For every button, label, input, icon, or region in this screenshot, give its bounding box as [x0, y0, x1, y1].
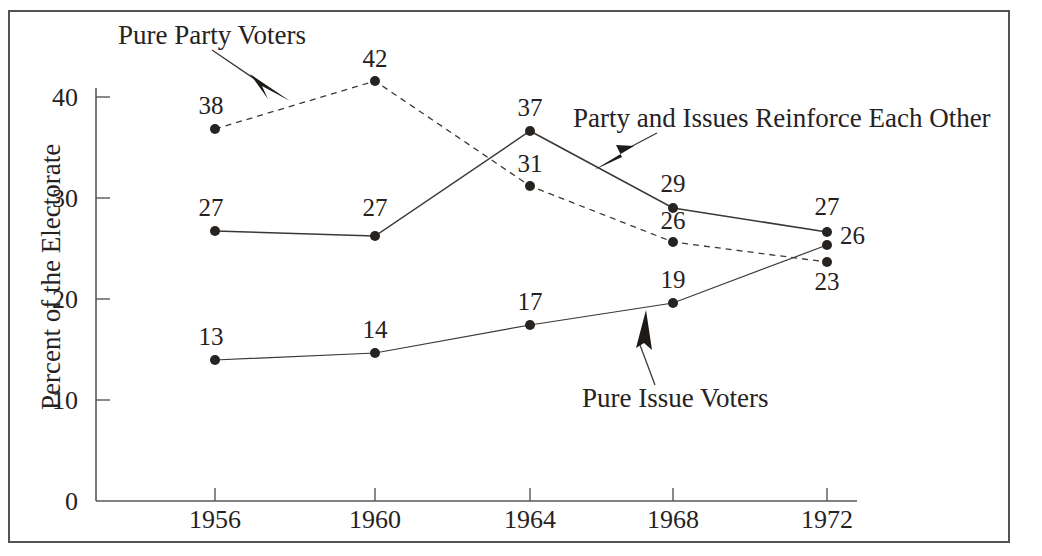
y-tick-label-0: 0 — [8, 487, 78, 517]
y-tick-label-40: 40 — [8, 83, 78, 113]
data-point — [822, 227, 832, 237]
data-label-issue-1956: 13 — [183, 323, 239, 351]
data-point — [822, 240, 832, 250]
data-point — [668, 298, 678, 308]
x-tick-label-1964: 1964 — [470, 505, 590, 535]
annotation-party-and-issues: Party and Issues Reinforce Each Other — [573, 103, 991, 134]
x-tick-label-1956: 1956 — [155, 505, 275, 535]
x-tick-label-1960: 1960 — [315, 505, 435, 535]
data-label-party-1960: 42 — [347, 45, 403, 73]
data-label-issue-1972: 26 — [840, 222, 865, 250]
chart-plot-area — [0, 0, 1042, 556]
arrow-head-pure-party — [250, 74, 290, 101]
data-point — [525, 181, 535, 191]
data-point — [210, 226, 220, 236]
data-label-reinforce-1972: 27 — [799, 193, 855, 221]
data-point — [668, 237, 678, 247]
x-tick-label-1972: 1972 — [767, 505, 887, 535]
arrow-head-party-and-issues — [594, 145, 634, 170]
data-label-party-1968: 26 — [645, 207, 701, 235]
data-label-reinforce-1968: 29 — [645, 170, 701, 198]
data-point — [525, 320, 535, 330]
data-label-issue-1960: 14 — [347, 316, 403, 344]
arrow-head-pure-issue — [636, 310, 652, 350]
data-label-party-1972: 23 — [799, 268, 855, 296]
data-label-reinforce-1956: 27 — [183, 194, 239, 222]
data-point — [525, 126, 535, 136]
series-line-party-and-issues — [215, 131, 827, 236]
y-tick-label-10: 10 — [8, 386, 78, 416]
annotation-pure-party-voters: Pure Party Voters — [118, 20, 306, 51]
x-tick-label-1968: 1968 — [613, 505, 733, 535]
data-label-issue-1968: 19 — [645, 266, 701, 294]
data-label-party-1956: 38 — [183, 92, 239, 120]
data-point — [822, 257, 832, 267]
data-point — [210, 124, 220, 134]
data-label-party-1964: 31 — [502, 150, 558, 178]
leader-line-pure-issue — [640, 345, 655, 385]
y-tick-label-20: 20 — [8, 285, 78, 315]
data-label-reinforce-1960: 27 — [347, 194, 403, 222]
data-label-issue-1964: 17 — [502, 288, 558, 316]
data-label-reinforce-1964: 37 — [502, 94, 558, 122]
data-point — [370, 231, 380, 241]
data-point — [370, 348, 380, 358]
figure-container: Percent of the Electorate 40 30 20 10 0 … — [0, 0, 1042, 556]
y-tick-label-30: 30 — [8, 184, 78, 214]
data-point — [210, 355, 220, 365]
data-point — [370, 76, 380, 86]
annotation-pure-issue-voters: Pure Issue Voters — [582, 383, 769, 414]
